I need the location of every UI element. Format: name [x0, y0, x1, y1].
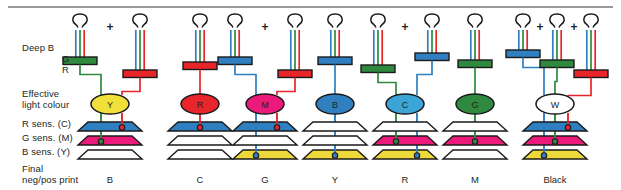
column-result-label-col-black: Black [515, 174, 595, 185]
plus-sign: + [102, 20, 118, 34]
col-r-lamp-bulb [371, 14, 385, 27]
col-black-lamp-bulb [584, 14, 598, 27]
col-y-drop-dot [332, 153, 337, 158]
col-y-effective-colour-label: B [332, 100, 338, 110]
col-b-red-filter [123, 70, 157, 78]
col-black-green-filter [540, 60, 574, 68]
col-b-lamp-bulb [73, 14, 87, 27]
col-m-lamp-bulb [468, 14, 482, 27]
col-c-lamp-bulb [193, 14, 207, 27]
col-c-drop-dot [197, 125, 202, 130]
col-black-drop-dot [541, 153, 546, 158]
row-label-b-sens: B sens. (Y) [22, 146, 70, 158]
col-g-layer-r-sens-c [233, 122, 297, 131]
col-m-layer-r-sens-c [443, 122, 507, 131]
col-g-effective-colour-label: M [261, 100, 269, 110]
column-result-label-col-r: R [365, 174, 445, 185]
col-y-lamp-bulb [328, 14, 342, 27]
col-black-layer-r-sens-c [523, 122, 587, 131]
col-m-green-filter [458, 60, 492, 68]
col-c-layer-g-sens-m [168, 136, 232, 145]
col-m-layer-b-sens-y [443, 150, 507, 159]
col-b-layer-r-sens-c [78, 122, 142, 131]
col-r-layer-g-sens-m [373, 136, 437, 145]
col-c-red-filter [183, 62, 217, 70]
column-result-label-col-m: M [435, 174, 515, 185]
plus-sign: + [532, 20, 548, 34]
col-r-blue-filter [415, 53, 449, 61]
col-black-lamp-bulb [516, 14, 530, 27]
col-g-feed-line [277, 78, 295, 96]
col-m-drop-dot [472, 139, 477, 144]
diagram-canvas: YRMBCGW [0, 0, 621, 190]
column-result-label-col-y: Y [295, 174, 375, 185]
col-g-layer-g-sens-m [233, 136, 297, 145]
column-result-label-col-b: B [70, 174, 150, 185]
col-black-red-filter [574, 70, 608, 78]
col-b-feed-line [122, 78, 140, 96]
col-g-red-filter [278, 70, 312, 78]
column-result-label-col-g: G [225, 174, 305, 185]
col-r-green-filter [361, 65, 395, 73]
col-black-blue-filter [506, 50, 540, 58]
col-b-effective-colour-label: Y [107, 100, 113, 110]
row-label-effective-1: Effective [22, 88, 59, 100]
col-y-layer-g-sens-m [303, 136, 367, 145]
col-b-layer-g-sens-m [78, 136, 142, 145]
col-black-feed-line [568, 78, 591, 96]
col-g-lamp-bulb [228, 14, 242, 27]
col-black-layer-b-sens-y [523, 150, 587, 159]
col-g-drop-dot [274, 125, 279, 130]
figure-root: YRMBCGW Deep BGREffectivelight colourR s… [0, 0, 621, 190]
col-r-drop-dot [414, 153, 419, 158]
col-b-lamp-bulb [133, 14, 147, 27]
row-label-deep-g: G [62, 53, 70, 65]
col-r-feed-line [417, 61, 432, 96]
col-g-lamp-bulb [288, 14, 302, 27]
col-b-drop-dot [98, 139, 103, 144]
col-g-layer-b-sens-y [233, 150, 297, 159]
col-r-drop-dot [393, 139, 398, 144]
col-b-drop-dot [119, 125, 124, 130]
row-label-deep-r: R [62, 64, 69, 76]
col-black-drop-dot [565, 125, 570, 130]
row-label-deep-b: Deep B [22, 42, 54, 54]
col-r-feed-line [378, 73, 396, 96]
row-label-r-sens: R sens. (C) [22, 118, 71, 130]
col-r-effective-colour-label: C [402, 100, 409, 110]
col-black-feed-line [555, 68, 557, 96]
col-b-feed-line [80, 65, 101, 96]
col-g-feed-line [235, 65, 256, 96]
col-r-layer-b-sens-y [373, 150, 437, 159]
col-black-lamp-bulb [550, 14, 564, 27]
plus-sign: + [257, 20, 273, 34]
col-black-drop-dot [552, 139, 557, 144]
col-g-blue-filter [218, 57, 252, 65]
col-r-lamp-bulb [425, 14, 439, 27]
col-g-drop-dot [253, 153, 258, 158]
row-label-final-1: Final [22, 163, 43, 175]
row-label-effective-2: light colour [22, 99, 69, 111]
plus-sign: + [566, 20, 582, 34]
col-r-layer-r-sens-c [373, 122, 437, 131]
col-y-layer-r-sens-c [303, 122, 367, 131]
col-c-effective-colour-label: R [197, 100, 204, 110]
col-black-effective-colour-label: W [551, 100, 560, 110]
col-b-layer-b-sens-y [78, 150, 142, 159]
row-label-g-sens: G sens. (M) [22, 132, 73, 144]
col-y-blue-filter [318, 57, 352, 65]
plus-sign: + [397, 20, 413, 34]
col-c-layer-b-sens-y [168, 150, 232, 159]
col-m-effective-colour-label: G [471, 100, 478, 110]
